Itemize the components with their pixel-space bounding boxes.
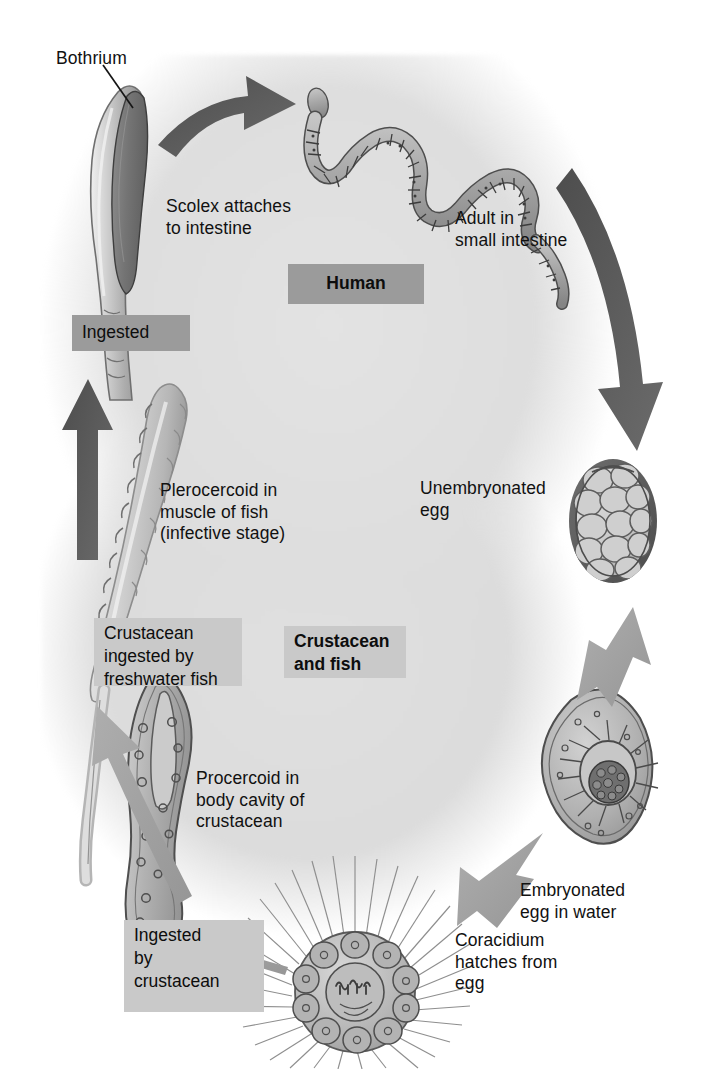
arrow-scolex-to-adult [158, 76, 296, 157]
label-embryonated-egg-in-water: Embryonated egg in water [520, 880, 625, 923]
label-adult-in-small-intestine: Adult in small intestine [455, 208, 567, 251]
life-cycle-diagram: Bothrium Scolex attaches to intestine Ad… [0, 0, 702, 1069]
arrow-egg-to-embryonated-egg [577, 607, 651, 707]
label-scolex-attaches-to-intestine: Scolex attaches to intestine [166, 196, 291, 239]
arrow-procercoid-to-plerocercoid [92, 706, 192, 904]
label-coracidium-hatches-from-egg: Coracidium hatches from egg [455, 930, 557, 995]
host-band-human: Human [288, 264, 424, 304]
label-plerocercoid-in-muscle-of-fish: Plerocercoid in muscle of fish (infectiv… [160, 480, 285, 545]
label-procercoid-in-body-cavity-of-crustacean: Procercoid in body cavity of crustacean [196, 768, 304, 833]
label-bothrium: Bothrium [56, 48, 127, 70]
arrow-adult-to-unembryonated-egg [556, 168, 663, 451]
arrow-plerocercoid-to-human [62, 379, 113, 560]
label-ingested-by-crustacean: Ingested by crustacean [124, 920, 264, 1012]
label-ingested-top: Ingested [72, 315, 190, 351]
label-crustacean-ingested-by-freshwater-fish: Crustacean ingested by freshwater fish [94, 618, 242, 686]
label-unembryonated-egg: Unembryonated egg [420, 478, 546, 521]
host-band-crustacean-and-fish: Crustacean and fish [284, 626, 406, 678]
